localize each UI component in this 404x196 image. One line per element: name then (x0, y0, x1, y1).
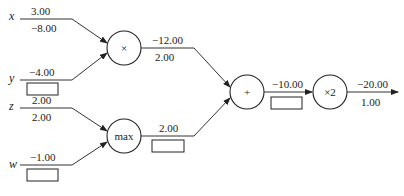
computational-graph: x 3.00 −8.00 y −4.00 z 2.00 2.00 w −1.00… (0, 0, 404, 196)
x-gradient-value: −8.00 (31, 22, 57, 34)
input-label-y: y (8, 71, 15, 85)
w-gradient-box[interactable] (27, 169, 58, 181)
max-node-label: max (115, 130, 134, 142)
x-forward-value: 3.00 (31, 5, 51, 17)
input-label-x: x (8, 9, 15, 23)
input-label-z: z (8, 99, 14, 113)
y-forward-value: −4.00 (29, 66, 55, 78)
output-forward-value: −20.00 (357, 78, 388, 90)
w-forward-value: −1.00 (30, 151, 56, 163)
add-gradient-box[interactable] (271, 97, 302, 109)
add-forward-value: −10.00 (272, 78, 303, 90)
input-label-w: w (9, 157, 17, 171)
mul-forward-value: −12.00 (152, 34, 183, 46)
max-forward-value: 2.00 (159, 122, 179, 134)
z-forward-value: 2.00 (32, 94, 52, 106)
add-node-label: + (244, 86, 250, 98)
max-gradient-box[interactable] (152, 140, 184, 152)
multiply-node-label: × (121, 42, 127, 54)
z-gradient-value: 2.00 (32, 111, 52, 123)
mul-gradient-value: 2.00 (155, 51, 175, 63)
output-gradient-value: 1.00 (361, 96, 381, 108)
times2-node-label: ×2 (324, 86, 336, 98)
edge-max-to-add (141, 98, 230, 136)
